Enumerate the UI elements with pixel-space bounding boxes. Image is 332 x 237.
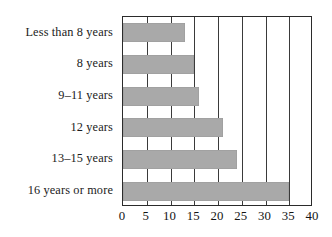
category-label: Less than 8 years — [25, 25, 113, 39]
category-axis-labels: Less than 8 years 8 years 9–11 years 12 … — [0, 16, 118, 206]
category-label: 16 years or more — [28, 183, 113, 197]
x-tick-label: 40 — [305, 208, 318, 224]
bar — [123, 87, 199, 106]
category-label: 9–11 years — [58, 88, 113, 102]
bar-row — [123, 175, 289, 206]
x-tick-label: 30 — [258, 208, 271, 224]
bar-row — [123, 49, 194, 81]
bar — [123, 23, 185, 42]
category-label: 8 years — [77, 56, 113, 70]
category-label: 13–15 years — [52, 151, 113, 165]
bar — [123, 150, 237, 169]
category-label: 12 years — [70, 120, 113, 134]
x-tick-label: 25 — [234, 208, 247, 224]
bar — [123, 55, 194, 74]
bar — [123, 182, 289, 201]
x-tick-label: 0 — [119, 208, 126, 224]
bar-chart: Less than 8 years 8 years 9–11 years 12 … — [0, 0, 332, 237]
bar-row — [123, 144, 237, 176]
x-tick-label: 10 — [163, 208, 176, 224]
bar-row — [123, 80, 199, 112]
x-tick-label: 35 — [282, 208, 295, 224]
x-tick-label: 15 — [187, 208, 200, 224]
bar — [123, 118, 223, 137]
x-axis-tick-labels: 0510152025303540 — [122, 208, 312, 230]
x-tick-label: 5 — [142, 208, 149, 224]
x-tick-label: 20 — [210, 208, 223, 224]
plot-area — [122, 16, 312, 206]
bar-row — [123, 17, 185, 49]
bars — [123, 17, 311, 205]
bar-row — [123, 112, 223, 144]
